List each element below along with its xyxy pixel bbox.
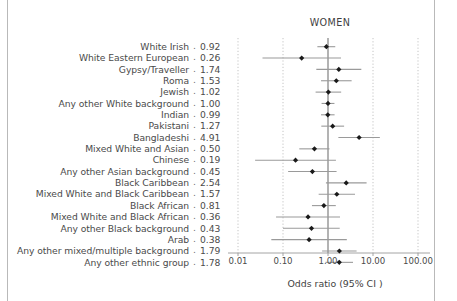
point-estimate-marker [330,124,335,129]
point-estimate-marker [305,214,310,219]
point-estimate-marker [310,169,315,174]
point-estimate-marker [321,203,326,208]
forest-plot-figure: White Irish.0.92White Eastern European.0… [0,0,457,301]
point-estimate-marker [293,158,298,163]
plot-title: WOMEN [250,17,410,28]
point-estimate-marker [336,67,341,72]
x-tick-label: 0.01 [228,256,247,266]
point-estimate-marker [325,101,330,106]
point-estimate-marker [299,55,304,60]
x-tick-label: 1.00 [318,256,337,266]
point-estimate-marker [344,180,349,185]
point-estimate-marker [356,135,361,140]
x-tick-label: 0.10 [273,256,292,266]
point-estimate-marker [309,226,314,231]
point-estimate-marker [334,192,339,197]
point-estimate-marker [312,146,317,151]
x-axis-title: Odds ratio (95% CI ) [240,278,430,289]
x-tick-label: 10.00 [361,256,386,266]
point-estimate-marker [306,237,311,242]
point-estimate-marker [326,90,331,95]
point-estimate-marker [325,112,330,117]
point-estimate-marker [334,78,339,83]
x-tick-label: 100.00 [403,256,433,266]
